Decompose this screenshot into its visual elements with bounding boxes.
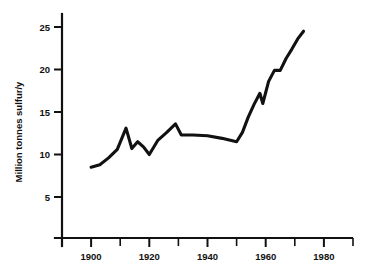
x-tick-label-1920: 1920 — [139, 251, 160, 262]
y-tick-label-15: 15 — [39, 107, 50, 118]
y-tick-label-10: 10 — [39, 149, 50, 160]
x-axis-major-ticks — [91, 238, 324, 247]
data-line-sulfur-emissions — [91, 31, 303, 167]
x-tick-label-1940: 1940 — [197, 251, 218, 262]
y-tick-label-20: 20 — [39, 64, 50, 75]
x-axis-tick-labels: 1900 1920 1940 1960 1980 — [81, 251, 335, 262]
line-chart: Million tonnes sulfur/y 25 20 15 10 5 — [0, 0, 368, 273]
chart-container: Million tonnes sulfur/y 25 20 15 10 5 — [0, 0, 368, 273]
x-tick-label-1960: 1960 — [255, 251, 276, 262]
y-axis-ticks — [54, 27, 62, 197]
x-tick-label-1900: 1900 — [81, 251, 102, 262]
y-axis-label: Million tonnes sulfur/y — [13, 81, 24, 183]
x-tick-label-1980: 1980 — [313, 251, 334, 262]
y-tick-label-25: 25 — [39, 22, 50, 33]
y-tick-label-5: 5 — [45, 192, 51, 203]
y-axis-tick-labels: 25 20 15 10 5 — [39, 22, 50, 203]
